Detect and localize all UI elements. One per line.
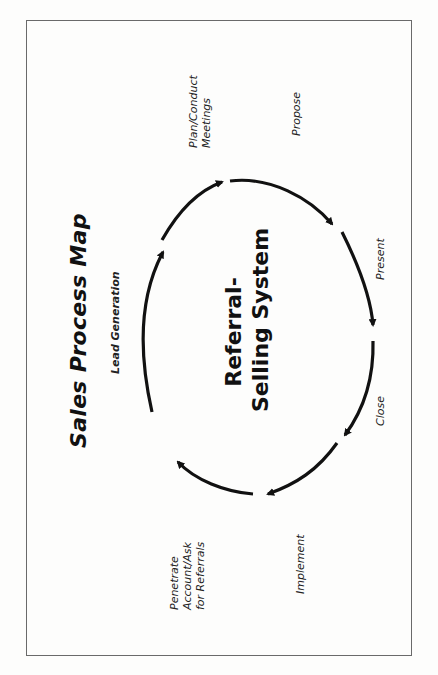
arrow-present bbox=[342, 232, 373, 325]
arrow-implement bbox=[268, 443, 337, 494]
diagram-title: Sales Process Map bbox=[66, 213, 91, 448]
stage-present: Present bbox=[374, 238, 387, 280]
stage-penetrate-account: Penetrate Account/Ask for Referrals bbox=[168, 542, 207, 610]
stage-lead-generation: Lead Generation bbox=[109, 271, 122, 374]
center-label: Referral- Selling System bbox=[220, 252, 274, 412]
arrow-lead-generation bbox=[143, 252, 163, 412]
stage-close: Close bbox=[374, 396, 387, 426]
center-label-line2: Selling System bbox=[247, 252, 274, 412]
arrow-plan-meetings bbox=[162, 182, 222, 240]
arrow-close bbox=[345, 341, 373, 435]
stage-implement: Implement bbox=[294, 534, 307, 594]
arrow-penetrate bbox=[178, 462, 253, 494]
stage-propose: Propose bbox=[290, 92, 303, 136]
center-label-line1: Referral- bbox=[220, 252, 247, 412]
arrow-propose bbox=[230, 180, 332, 224]
stage-plan-conduct-meetings: Plan/Conduct Meetings bbox=[187, 75, 213, 148]
